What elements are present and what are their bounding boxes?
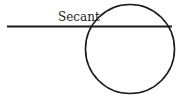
secant-label: Secant bbox=[58, 10, 100, 24]
secant-diagram: Secant bbox=[0, 0, 176, 97]
